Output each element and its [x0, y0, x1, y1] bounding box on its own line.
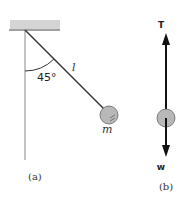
weight-arrowhead-icon: [162, 145, 170, 157]
pendulum-diagram: 45° l m (a) T w (b): [0, 0, 185, 200]
figure-b: T w (b): [157, 20, 175, 192]
pendulum-bob: [100, 106, 118, 124]
mass-label: m: [102, 123, 112, 136]
caption-a: (a): [28, 171, 42, 182]
weight-label: w: [157, 162, 165, 172]
length-label: l: [72, 61, 76, 74]
angle-label: 45°: [37, 71, 57, 84]
angle-arc: [25, 59, 54, 71]
tension-label: T: [158, 20, 165, 30]
tension-arrowhead-icon: [162, 33, 170, 45]
caption-b: (b): [159, 181, 173, 192]
ceiling-support: [10, 20, 60, 29]
figure-a: 45° l m (a): [9, 20, 118, 182]
